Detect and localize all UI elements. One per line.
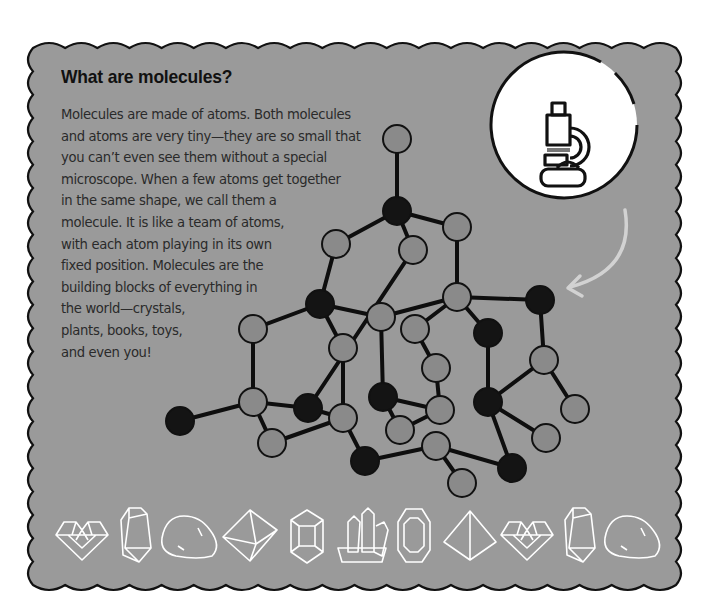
atom-black: [474, 319, 502, 347]
atom-gray: [532, 424, 560, 452]
body-line: you can’t even see them without a specia…: [61, 147, 361, 169]
atom-gray: [530, 346, 558, 374]
body-line: molecule. It is like a team of atoms,: [61, 212, 361, 234]
body-line: Molecules are made of atoms. Both molecu…: [61, 104, 361, 126]
atom-gray: [367, 303, 395, 331]
atom-gray: [399, 236, 427, 264]
atom-black: [526, 286, 554, 314]
body-line: and even you!: [61, 342, 361, 364]
body-line: and atoms are very tiny—they are so smal…: [61, 126, 361, 148]
atom-gray: [329, 404, 357, 432]
page-title: What are molecules?: [61, 66, 232, 88]
atom-gray: [239, 388, 267, 416]
atom-gray: [383, 125, 411, 153]
atom-gray: [426, 396, 454, 424]
body-line: building blocks of everything in: [61, 277, 361, 299]
body-paragraph: Molecules are made of atoms. Both molecu…: [61, 104, 361, 363]
atom-gray: [258, 429, 286, 457]
atom-black: [351, 447, 379, 475]
body-line: fixed position. Molecules are the: [61, 255, 361, 277]
body-line: with each atom playing in its own: [61, 234, 361, 256]
atom-gray: [422, 432, 450, 460]
atom-black: [369, 383, 397, 411]
atom-gray: [401, 315, 429, 343]
atom-black: [474, 388, 502, 416]
body-line: microscope. When a few atoms get togethe…: [61, 169, 361, 191]
atom-gray: [386, 416, 414, 444]
atom-black: [498, 454, 526, 482]
body-line: plants, books, toys,: [61, 320, 361, 342]
atom-gray: [443, 283, 471, 311]
microscope-badge: [491, 52, 637, 198]
body-line: the world—crystals,: [61, 298, 361, 320]
atom-gray: [561, 395, 589, 423]
atom-black: [383, 197, 411, 225]
atom-gray: [443, 213, 471, 241]
atom-gray: [422, 354, 450, 382]
atom-black: [166, 407, 194, 435]
body-line: in the same shape, we call them a: [61, 190, 361, 212]
atom-gray: [448, 469, 476, 497]
atom-black: [294, 394, 322, 422]
